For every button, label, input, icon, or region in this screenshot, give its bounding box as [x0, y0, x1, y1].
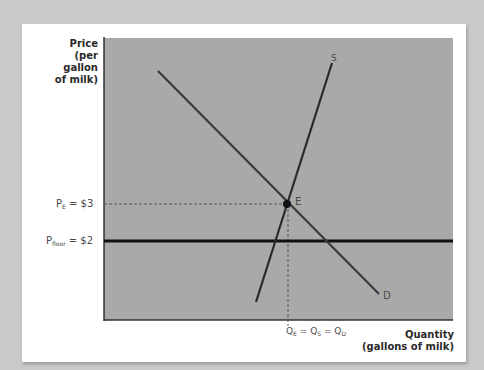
- supply-label: S: [331, 53, 337, 63]
- demand-label: D: [383, 290, 391, 301]
- equilibrium-point: [283, 200, 291, 208]
- x-axis-title: Quantity (gallons of milk): [340, 329, 454, 353]
- pe-label: PE = $3: [56, 198, 93, 210]
- y-axis-title: Price (per gallon of milk): [40, 38, 98, 86]
- pfloor-label: Pfloor = $2: [46, 235, 93, 247]
- q-equilibrium-label: QE = QS = QD: [286, 326, 346, 337]
- point-e-label: E: [295, 196, 301, 207]
- plot-area: [104, 38, 453, 320]
